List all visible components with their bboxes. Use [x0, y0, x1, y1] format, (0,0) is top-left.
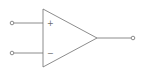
plus-sign-label: +: [47, 19, 54, 28]
op-amp-triangle: [43, 9, 97, 67]
non-inverting-input-terminal: [10, 21, 14, 25]
op-amp-diagram: + −: [0, 0, 145, 70]
inverting-input-terminal: [10, 51, 14, 55]
minus-sign-label: −: [47, 49, 54, 58]
output-terminal: [131, 36, 135, 40]
